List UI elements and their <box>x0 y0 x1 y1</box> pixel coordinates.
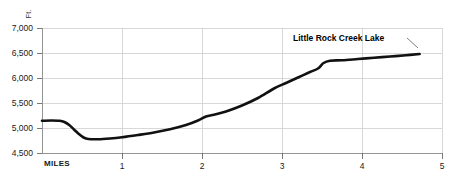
y-tick-label-6500: 6,500 <box>12 48 34 58</box>
y-tick-label-6000: 6,000 <box>12 73 34 83</box>
annotation-leader-line <box>407 38 418 48</box>
y-axis-unit-label: Ft. <box>24 10 33 19</box>
y-tick-label-4500: 4,500 <box>12 148 34 158</box>
x-tick-label-1: 1 <box>120 161 125 171</box>
x-tick-label-3: 3 <box>280 161 285 171</box>
x-axis-ticks <box>122 153 442 159</box>
vertical-gridlines <box>122 28 442 153</box>
y-axis-ticks <box>37 28 42 153</box>
y-tick-label-7000: 7,000 <box>12 23 34 33</box>
horizontal-gridlines <box>42 28 442 128</box>
elevation-profile-line <box>42 54 420 139</box>
y-tick-label-5500: 5,500 <box>12 98 34 108</box>
x-tick-label-4: 4 <box>360 161 365 171</box>
y-tick-label-5000: 5,000 <box>12 123 34 133</box>
annotation-little-rock-creek-lake: Little Rock Creek Lake <box>293 33 384 43</box>
elevation-profile-screenshot: 7,000 6,500 6,000 5,500 5,000 4,500 Ft. … <box>0 0 461 180</box>
x-tick-label-2: 2 <box>200 161 205 171</box>
x-axis-name-label: MILES <box>44 159 70 168</box>
elevation-profile-chart: 7,000 6,500 6,000 5,500 5,000 4,500 Ft. … <box>0 0 461 180</box>
x-tick-label-5: 5 <box>440 161 445 171</box>
